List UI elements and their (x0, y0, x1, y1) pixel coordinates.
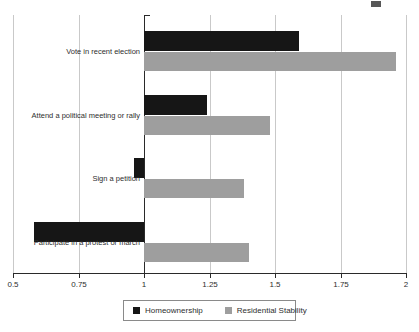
category-label: Attend a political meeting or rally (32, 111, 140, 120)
category-axis-top-tick (144, 15, 150, 16)
category-label: Vote in recent election (66, 47, 140, 56)
legend-item-residential-stability: Residential Stability (225, 306, 307, 315)
x-axis-tick-label: 0.5 (7, 280, 18, 289)
category-label: Participate in a protest or march (34, 238, 140, 247)
x-axis-tick (79, 274, 80, 278)
category-label: Sign a petition (92, 174, 140, 183)
legend: Homeownership Residential Stability (123, 300, 296, 321)
x-axis-tick-label: 1.75 (333, 280, 349, 289)
x-axis-tick-label: 2 (404, 280, 408, 289)
gridline (406, 15, 407, 273)
x-axis-tick-label: 0.75 (71, 280, 87, 289)
legend-label-residential-stability: Residential Stability (237, 306, 307, 315)
x-axis-tick-label: 1.25 (202, 280, 218, 289)
legend-swatch-residential-stability-icon (225, 307, 232, 314)
x-axis-tick (341, 274, 342, 278)
scan-artifact-mark (371, 1, 381, 7)
bar-residential-stability (144, 243, 249, 262)
legend-label-homeownership: Homeownership (145, 306, 203, 315)
x-axis-tick-label: 1 (142, 280, 146, 289)
x-axis-tick (210, 274, 211, 278)
x-axis-tick (144, 274, 145, 278)
bar-homeownership (144, 31, 299, 51)
bar-residential-stability (144, 52, 396, 71)
x-axis-tick (406, 274, 407, 278)
bar-residential-stability (144, 179, 244, 198)
bar-residential-stability (144, 116, 270, 135)
legend-item-homeownership: Homeownership (133, 306, 203, 315)
plot-area: Vote in recent electionAttend a politica… (0, 0, 419, 332)
legend-swatch-homeownership-icon (133, 307, 140, 314)
x-axis-tick-label: 1.5 (269, 280, 280, 289)
bar-homeownership (144, 95, 207, 115)
x-axis-tick (275, 274, 276, 278)
chart-figure: Vote in recent electionAttend a politica… (0, 0, 419, 332)
gridline (13, 15, 14, 273)
x-axis-tick (13, 274, 14, 278)
